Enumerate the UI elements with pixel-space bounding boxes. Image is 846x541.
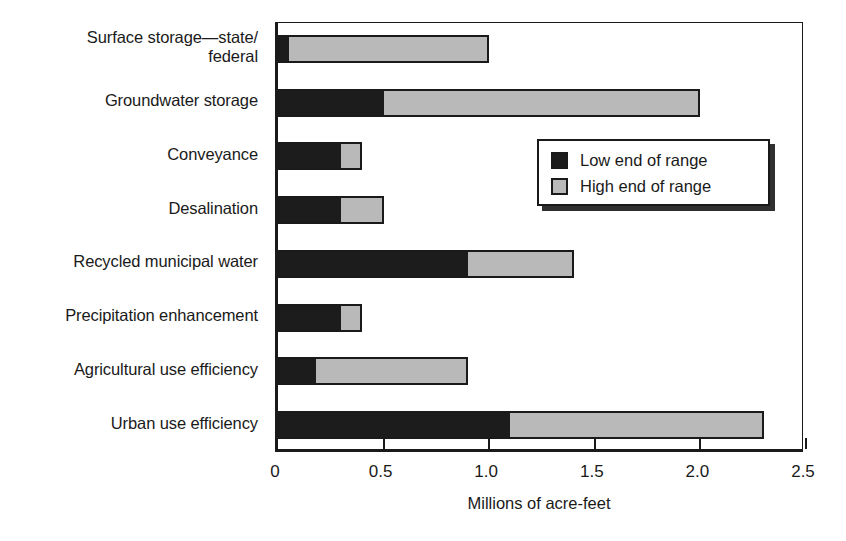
bar-segment-high (384, 89, 701, 117)
bar-segment-low (278, 357, 316, 385)
bar-segment-high (341, 304, 362, 332)
category-label: Precipitation enhancement (65, 306, 258, 325)
bar-segment-low (278, 35, 289, 63)
legend-label: High end of range (580, 177, 711, 196)
x-axis-tick-label: 2.0 (667, 462, 727, 482)
category-label: Groundwater storage (105, 91, 258, 110)
bar-segment-low (278, 250, 468, 278)
x-axis-title: Millions of acre-feet (275, 494, 803, 513)
bar-segment-low (278, 142, 341, 170)
bar-segment-low (278, 196, 341, 224)
bar-segment-high (341, 196, 383, 224)
chart-legend: Low end of rangeHigh end of range (537, 139, 770, 206)
legend-label: Low end of range (580, 151, 708, 170)
bar-segment-low (278, 89, 384, 117)
x-axis-tick-label: 2.5 (773, 462, 833, 482)
bar-segment-high (468, 250, 574, 278)
bar-segment-high (289, 35, 490, 63)
category-axis-labels: Surface storage—state/ federalGroundwate… (0, 0, 268, 541)
legend-entry: Low end of range (551, 147, 768, 173)
legend-entry: High end of range (551, 173, 768, 199)
legend-swatch-low-icon (551, 152, 568, 169)
bar-segment-high (510, 411, 763, 439)
category-label: Recycled municipal water (73, 252, 258, 271)
bar-segment-high (341, 142, 362, 170)
category-label: Urban use efficiency (111, 414, 258, 433)
category-label: Surface storage—state/ federal (87, 28, 258, 66)
bar-chart-figure: Surface storage—state/ federalGroundwate… (0, 0, 846, 541)
bar-segment-high (316, 357, 468, 385)
x-axis-tick-label: 0.5 (351, 462, 411, 482)
category-label: Agricultural use efficiency (74, 360, 258, 379)
x-axis-tick-label: 1.5 (562, 462, 622, 482)
bar-segment-low (278, 304, 341, 332)
legend-swatch-high-icon (551, 178, 568, 195)
x-axis-tick (805, 438, 807, 449)
plot-area (275, 22, 803, 452)
category-label: Conveyance (167, 145, 258, 164)
category-label: Desalination (168, 199, 258, 218)
x-axis-tick-label: 0 (245, 462, 305, 482)
x-axis-tick (699, 438, 701, 449)
bar-segment-low (278, 411, 510, 439)
x-axis-tick-label: 1.0 (456, 462, 516, 482)
x-axis-tick (488, 438, 490, 449)
x-axis-tick (383, 438, 385, 449)
x-axis-tick (594, 438, 596, 449)
legend-box: Low end of rangeHigh end of range (537, 139, 770, 206)
